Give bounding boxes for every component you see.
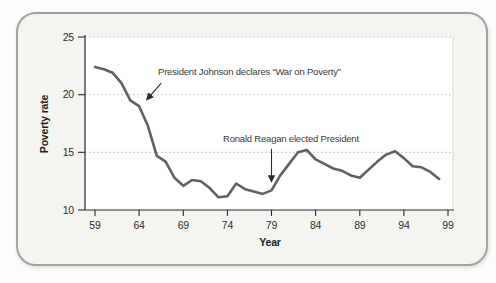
y-tick-label-15: 15 xyxy=(63,146,75,158)
annotation-reagan-elected: Ronald Reagan elected President xyxy=(223,133,359,144)
x-ticks xyxy=(95,210,448,216)
y-tick-label-10: 10 xyxy=(63,204,75,216)
x-tick-label-64: 64 xyxy=(133,219,145,231)
x-tick-label-94: 94 xyxy=(398,219,410,231)
y-ticks xyxy=(78,37,85,210)
x-tick-label-74: 74 xyxy=(222,219,234,231)
y-tick-label-25: 25 xyxy=(63,31,75,43)
plot-area xyxy=(85,37,453,210)
y-tick-label-20: 20 xyxy=(63,88,75,100)
x-tick-label-59: 59 xyxy=(89,219,101,231)
y-axis-title: Poverty rate xyxy=(38,94,50,153)
x-axis-title: Year xyxy=(259,236,281,248)
x-tick-label-89: 89 xyxy=(354,219,366,231)
x-tick-label-99: 99 xyxy=(442,219,454,231)
x-tick-label-69: 69 xyxy=(178,219,190,231)
annotation-war-on-poverty: President Johnson declares “War on Pover… xyxy=(158,66,341,77)
x-tick-label-79: 79 xyxy=(266,219,278,231)
page: 25 20 15 10 59 64 69 74 79 84 89 94 99 Y… xyxy=(0,0,496,283)
poverty-rate-chart: 25 20 15 10 59 64 69 74 79 84 89 94 99 Y… xyxy=(0,0,496,283)
x-tick-label-84: 84 xyxy=(310,219,322,231)
